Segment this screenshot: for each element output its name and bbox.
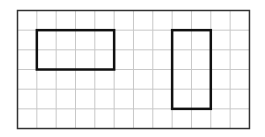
- grid-diagram: [0, 0, 265, 137]
